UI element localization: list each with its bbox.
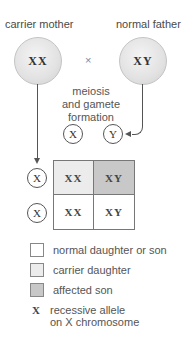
gamete-label: X	[69, 128, 77, 140]
mother-label: carrier mother	[5, 18, 73, 30]
punnett-cell-normal-son: XY	[94, 195, 134, 229]
mother-genotype: XX	[28, 54, 47, 69]
allele-description: recessive allele on X chromosome	[50, 304, 139, 328]
arrow-left-icon	[125, 131, 131, 137]
meiosis-line-1: meiosis	[46, 85, 136, 98]
gamete-label: X	[33, 207, 41, 219]
legend-item-affected: affected son	[30, 283, 113, 297]
legend-item-normal: normal daughter or son	[30, 243, 167, 257]
father-gamete-y: Y	[103, 124, 123, 144]
legend-item-carrier: carrier daughter	[30, 263, 131, 277]
mother-cell-circle: XX	[14, 37, 62, 85]
cell-genotype: XX	[65, 172, 83, 184]
allele-symbol: X	[29, 304, 43, 316]
mother-gamete-2: X	[27, 203, 47, 223]
father-arrow-line	[132, 84, 143, 135]
punnett-square: XX XY XX XY	[53, 160, 135, 230]
gamete-label: X	[33, 172, 41, 184]
father-gamete-x: X	[63, 124, 83, 144]
arrow-down-icon	[34, 158, 40, 164]
meiosis-label: meiosis and gamete formation	[46, 85, 136, 124]
allele-line-2: on X chromosome	[50, 316, 139, 328]
legend-label: affected son	[53, 284, 113, 296]
punnett-cell-normal-daughter: XX	[54, 195, 94, 229]
mother-arrow-line	[37, 84, 38, 160]
punnett-cell-carrier-daughter: XX	[54, 161, 94, 195]
father-genotype: XY	[133, 54, 152, 69]
meiosis-line-3: formation	[46, 111, 136, 124]
cell-genotype: XY	[105, 172, 123, 184]
father-cell-circle: XY	[119, 37, 167, 85]
swatch-affected	[30, 283, 44, 297]
legend-item-allele: X recessive allele on X chromosome	[29, 304, 139, 328]
cell-genotype: XY	[105, 206, 123, 218]
father-label: normal father	[116, 18, 181, 30]
legend-label: carrier daughter	[53, 264, 131, 276]
legend-label: normal daughter or son	[53, 244, 167, 256]
cell-genotype: XX	[65, 206, 83, 218]
meiosis-line-2: and gamete	[46, 98, 136, 111]
swatch-carrier	[30, 263, 44, 277]
gamete-label: Y	[109, 128, 117, 140]
cross-symbol: ×	[85, 54, 91, 66]
allele-line-1: recessive allele	[50, 304, 139, 316]
swatch-normal	[30, 243, 44, 257]
mother-gamete-1: X	[27, 168, 47, 188]
punnett-cell-affected-son: XY	[94, 161, 134, 195]
